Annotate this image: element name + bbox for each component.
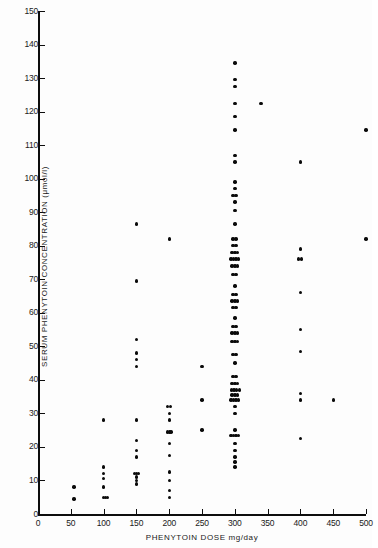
data-point <box>299 350 302 353</box>
data-point <box>299 160 302 163</box>
data-point <box>234 273 237 276</box>
x-ticklabel-350: 350 <box>251 519 285 528</box>
x-ticklabel-150: 150 <box>119 519 153 528</box>
y-ticklabel-90: 90 <box>8 208 38 217</box>
data-point <box>233 160 236 163</box>
data-point <box>299 437 302 440</box>
y-ticklabel-20: 20 <box>8 442 38 451</box>
y-ticklabel-130: 130 <box>8 74 38 83</box>
y-axis-title: SERUM PHENYTOIN CONCENTRATION (μmol/l) <box>40 117 49 417</box>
data-point <box>102 418 105 421</box>
data-point <box>233 180 236 183</box>
data-point <box>168 479 171 482</box>
data-point <box>234 293 237 296</box>
x-ticklabel-200: 200 <box>152 519 186 528</box>
x-ticklabel-450: 450 <box>316 519 350 528</box>
data-point <box>102 472 105 475</box>
data-point <box>233 284 236 287</box>
data-point <box>233 465 236 468</box>
data-point <box>233 428 236 431</box>
data-point <box>234 237 237 240</box>
data-point <box>168 496 171 499</box>
x-ticklabel-100: 100 <box>87 519 121 528</box>
data-point <box>236 382 239 385</box>
data-point <box>233 405 236 408</box>
x-ticklabel-250: 250 <box>185 519 219 528</box>
data-point <box>200 365 203 368</box>
y-ticklabel-50: 50 <box>8 342 38 351</box>
data-point <box>332 398 335 401</box>
data-point <box>135 418 138 421</box>
data-point <box>200 398 203 401</box>
data-point <box>236 264 239 267</box>
x-axis-line <box>38 514 366 516</box>
data-point <box>233 102 236 105</box>
data-point <box>169 405 172 408</box>
x-tick-500 <box>366 509 367 514</box>
y-tick-0 <box>40 514 45 515</box>
data-point <box>233 61 236 64</box>
x-ticklabel-500: 500 <box>349 519 378 528</box>
data-point <box>102 477 105 480</box>
data-point <box>200 428 203 431</box>
y-ticklabel-120: 120 <box>8 107 38 116</box>
data-point <box>234 244 237 247</box>
data-point <box>168 418 171 421</box>
data-point <box>259 102 262 105</box>
data-point <box>233 154 236 157</box>
data-point <box>168 489 171 492</box>
data-point <box>135 279 138 282</box>
data-point <box>135 358 138 361</box>
data-point <box>233 222 236 225</box>
data-point <box>135 351 138 354</box>
data-point <box>135 449 138 452</box>
data-point <box>238 388 241 391</box>
data-point <box>364 128 367 131</box>
x-axis-title: PHENYTOIN DOSE mg/day <box>38 533 366 542</box>
data-point <box>168 442 171 445</box>
data-point <box>237 398 240 401</box>
data-point <box>233 455 236 458</box>
data-point <box>237 257 240 260</box>
data-point <box>234 375 237 378</box>
y-ticklabel-40: 40 <box>8 375 38 384</box>
y-ticklabel-110: 110 <box>8 141 38 150</box>
data-point <box>234 194 237 197</box>
data-point <box>233 115 236 118</box>
data-point <box>135 365 138 368</box>
data-point <box>135 338 138 341</box>
y-ticklabel-60: 60 <box>8 308 38 317</box>
data-point <box>299 291 302 294</box>
y-ticklabel-10: 10 <box>8 476 38 485</box>
data-point <box>236 299 239 302</box>
data-point <box>233 78 236 81</box>
data-point <box>233 412 236 415</box>
data-point <box>233 187 236 190</box>
data-point <box>236 331 239 334</box>
data-point <box>234 325 237 328</box>
data-point <box>234 353 237 356</box>
data-point <box>234 306 237 309</box>
data-point <box>300 257 303 260</box>
y-ticklabel-140: 140 <box>8 40 38 49</box>
data-point <box>236 393 239 396</box>
data-point <box>237 434 240 437</box>
y-ticklabel-0: 0 <box>8 510 38 519</box>
data-point <box>135 455 138 458</box>
data-point <box>135 222 138 225</box>
data-point <box>236 251 239 254</box>
data-point <box>168 412 171 415</box>
data-point <box>236 340 239 343</box>
data-point <box>72 497 75 500</box>
data-point <box>233 200 236 203</box>
y-ticklabel-30: 30 <box>8 409 38 418</box>
data-point <box>233 85 236 88</box>
data-point <box>299 392 302 395</box>
x-ticklabel-400: 400 <box>283 519 317 528</box>
data-point <box>102 485 105 488</box>
data-point <box>106 496 109 499</box>
data-point <box>299 247 302 250</box>
data-point <box>168 454 171 457</box>
y-ticklabel-80: 80 <box>8 241 38 250</box>
